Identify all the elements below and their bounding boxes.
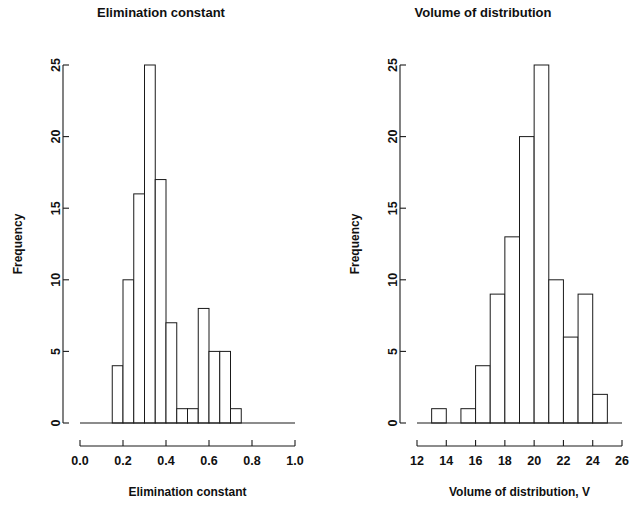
- x-axis-tick-label: 20: [527, 454, 541, 468]
- x-axis-tick-label: 26: [615, 454, 629, 468]
- x-axis-tick-label: 14: [439, 454, 453, 468]
- histogram-bar: [177, 409, 188, 423]
- histogram-bar: [166, 323, 177, 423]
- histogram-bar: [209, 351, 220, 423]
- histogram-bar: [432, 409, 447, 423]
- x-axis-tick-label: 22: [556, 454, 570, 468]
- histogram-bar: [563, 337, 578, 423]
- histogram-bar: [188, 409, 199, 423]
- x-axis-tick-label: 0.4: [157, 454, 174, 468]
- x-axis-tick-label: 24: [586, 454, 600, 468]
- y-axis-tick-label: 5: [386, 348, 400, 355]
- histogram-bar: [549, 280, 564, 423]
- x-axis-tick-label: 0.0: [71, 454, 88, 468]
- histogram-bar: [490, 294, 505, 423]
- x-axis-title: Elimination constant: [128, 485, 246, 499]
- figure-root: Elimination constant 05101520250.00.20.4…: [0, 0, 644, 506]
- y-axis-tick-label: 25: [49, 58, 63, 72]
- histogram-bar: [476, 366, 491, 423]
- histogram-bar: [134, 194, 145, 423]
- y-axis-tick-label: 25: [386, 58, 400, 72]
- y-axis-tick-label: 0: [49, 419, 63, 426]
- histogram-bar: [155, 180, 166, 423]
- panel-title-left: Elimination constant: [0, 5, 322, 20]
- x-axis-tick-label: 0.2: [114, 454, 131, 468]
- histogram-elimination-constant: 05101520250.00.20.40.60.81.0Elimination …: [0, 30, 322, 500]
- panel-volume-of-distribution: Volume of distribution 05101520251214161…: [322, 0, 644, 506]
- histogram-bar: [505, 237, 520, 423]
- histogram-bar: [220, 351, 231, 423]
- histogram-bar: [461, 409, 476, 423]
- x-axis-tick-label: 0.6: [200, 454, 217, 468]
- bars-group: [432, 65, 608, 423]
- x-axis-tick-label: 12: [410, 454, 424, 468]
- y-axis-tick-label: 20: [386, 130, 400, 144]
- histogram-bar: [112, 366, 123, 423]
- histogram-bar: [578, 294, 593, 423]
- x-axis-tick-label: 16: [469, 454, 483, 468]
- histogram-volume-of-distribution: 05101520251214161820222426Volume of dist…: [322, 30, 644, 500]
- y-axis-title: Frequency: [11, 213, 25, 274]
- histogram-bar: [534, 65, 549, 423]
- x-axis-title: Volume of distribution, V: [449, 485, 590, 499]
- y-axis-tick-label: 5: [49, 348, 63, 355]
- histogram-bar: [593, 394, 608, 423]
- y-axis-tick-label: 0: [386, 419, 400, 426]
- histogram-bar: [123, 280, 134, 423]
- x-axis-tick-label: 18: [498, 454, 512, 468]
- histogram-bar: [520, 137, 535, 423]
- panel-elimination-constant: Elimination constant 05101520250.00.20.4…: [0, 0, 322, 506]
- panel-title-right: Volume of distribution: [322, 5, 644, 20]
- y-axis-title: Frequency: [348, 213, 362, 274]
- y-axis-tick-label: 15: [386, 201, 400, 215]
- histogram-bar: [198, 308, 209, 423]
- y-axis-tick-label: 10: [49, 273, 63, 287]
- histogram-bar: [145, 65, 156, 423]
- bars-group: [112, 65, 241, 423]
- y-axis-tick-label: 10: [386, 273, 400, 287]
- x-axis-tick-label: 0.8: [243, 454, 260, 468]
- x-axis-tick-label: 1.0: [286, 454, 303, 468]
- histogram-bar: [231, 409, 242, 423]
- y-axis-tick-label: 15: [49, 201, 63, 215]
- y-axis-tick-label: 20: [49, 130, 63, 144]
